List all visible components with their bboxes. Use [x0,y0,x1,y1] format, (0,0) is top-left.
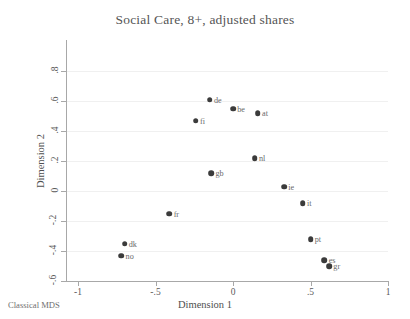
gridline [66,131,388,132]
data-point-pt [308,236,314,242]
y-axis-tick [61,161,66,162]
x-axis-tick-label: -.5 [150,287,160,297]
data-point-label-fi: fi [200,116,205,125]
x-axis-tick-label: .5 [307,287,314,297]
data-point-at [255,110,261,116]
y-axis-tick-label: .8 [30,65,58,75]
y-axis-tick-label: -.2 [30,215,58,225]
data-point-label-fr: fr [174,209,179,218]
data-point-dk [122,241,128,247]
gridline [66,101,388,102]
data-point-label-nl: nl [259,154,265,163]
y-axis-tick-label: .6 [30,95,58,105]
data-point-label-de: de [214,95,222,104]
y-axis-tick [61,101,66,102]
x-axis-line [65,281,389,282]
data-point-de [207,97,213,103]
x-axis-title: Dimension 1 [0,299,410,310]
data-point-label-gb: gb [216,169,224,178]
gridlines [66,41,388,281]
y-axis-tick [61,191,66,192]
chart-title: Social Care, 8+, adjusted shares [0,12,410,28]
y-axis-tick [61,251,66,252]
data-point-it [300,200,306,206]
x-axis-tick [78,281,79,286]
x-axis-tick-label: 0 [231,287,236,297]
data-point-ie [281,184,287,190]
gridline [66,71,388,72]
x-axis-tick-label: 1 [386,287,391,297]
data-point-label-gr: gr [333,262,340,271]
data-point-be [230,106,236,112]
gridline [66,191,388,192]
y-axis-tick-label: -.6 [30,275,58,285]
data-point-label-dk: dk [129,239,137,248]
data-point-no [119,253,125,259]
gridline [66,161,388,162]
figure-caption: Classical MDS [8,300,60,310]
y-axis-tick-label: -.4 [30,245,58,255]
y-axis-tick [61,221,66,222]
x-axis-tick-label: -1 [74,287,82,297]
data-point-gr [326,263,332,269]
data-point-nl [252,155,258,161]
data-point-label-be: be [237,104,245,113]
x-axis-tick [156,281,157,286]
gridline [66,251,388,252]
data-point-fi [193,118,199,124]
y-axis-line [66,40,67,282]
gridline [66,221,388,222]
y-axis-tick [61,71,66,72]
data-point-es [322,257,328,263]
y-axis-tick [61,131,66,132]
x-axis-tick [233,281,234,286]
y-axis-tick [61,281,66,282]
data-point-fr [167,211,173,217]
data-point-label-ie: ie [288,182,294,191]
y-axis-title: Dimension 2 [35,134,46,188]
x-axis-tick [388,281,389,286]
data-point-label-pt: pt [315,235,321,244]
data-point-label-at: at [262,109,268,118]
data-point-gb [209,170,215,176]
x-axis-tick [311,281,312,286]
data-point-label-it: it [307,199,312,208]
data-point-label-no: no [126,251,134,260]
scatter-plot-figure: Social Care, 8+, adjusted shares .8.6.4.… [0,0,410,319]
